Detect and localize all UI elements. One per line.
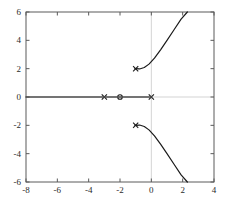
y-tick-label: 4 bbox=[2, 35, 21, 45]
x-tick-label: 0 bbox=[149, 185, 154, 195]
y-tick-label: 2 bbox=[2, 64, 21, 74]
figure-caption bbox=[0, 201, 228, 213]
x-tick-label: 4 bbox=[212, 185, 217, 195]
series-lower-branch bbox=[135, 125, 187, 182]
y-tick-label: -6 bbox=[2, 177, 21, 187]
y-tick-label: -4 bbox=[2, 149, 21, 159]
root-locus-plot bbox=[0, 0, 228, 213]
series-upper-branch bbox=[135, 12, 187, 69]
x-tick-label: -8 bbox=[22, 185, 30, 195]
chart-figure: -8-6-4-2024 -6-4-20246 bbox=[0, 0, 228, 213]
x-tick-label: -4 bbox=[85, 185, 93, 195]
y-tick-label: -2 bbox=[2, 120, 21, 130]
x-tick-label: 2 bbox=[180, 185, 185, 195]
y-tick-label: 6 bbox=[2, 7, 21, 17]
x-tick-label: -2 bbox=[116, 185, 124, 195]
x-tick-label: -6 bbox=[54, 185, 62, 195]
y-tick-label: 0 bbox=[2, 92, 21, 102]
